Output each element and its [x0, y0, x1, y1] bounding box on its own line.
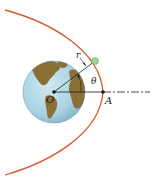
label-a: A	[104, 95, 112, 106]
satellite	[92, 58, 99, 65]
label-theta: θ	[91, 76, 97, 86]
point-a	[101, 90, 105, 94]
r-dimension-arrow	[80, 58, 86, 66]
label-origin: O	[46, 94, 54, 105]
orbit-diagram: r θ O A	[0, 0, 159, 178]
label-r: r	[76, 50, 81, 60]
